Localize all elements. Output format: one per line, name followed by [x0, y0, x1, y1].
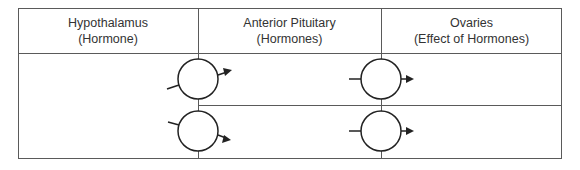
column-title: Anterior Pituitary [243, 15, 335, 31]
header-ovaries: Ovaries (Effect of Hormones) [381, 8, 562, 53]
column-title: Hypothalamus [68, 15, 148, 31]
hormone-table: Hypothalamus (Hormone) Anterior Pituitar… [0, 0, 580, 170]
header-hypothalamus: Hypothalamus (Hormone) [18, 8, 198, 53]
column-subtitle: (Effect of Hormones) [414, 31, 529, 47]
column-subtitle: (Hormones) [257, 31, 323, 47]
arrow-icon [406, 127, 414, 135]
connector-hypo-pit-1 [167, 59, 232, 99]
column-subtitle: (Hormone) [78, 31, 138, 47]
connector-pit-ovary-2 [349, 111, 414, 151]
connector-hypo-pit-2 [168, 111, 231, 151]
arrow-icon [406, 75, 414, 83]
circle-icon [178, 111, 218, 151]
circle-icon [361, 111, 401, 151]
header-anterior-pituitary: Anterior Pituitary (Hormones) [198, 8, 381, 53]
arrow-icon [223, 68, 232, 76]
connector-pit-ovary-1 [349, 59, 414, 99]
input-line [167, 85, 179, 89]
circle-icon [178, 59, 218, 99]
arrow-icon [222, 135, 231, 143]
circle-icon [361, 59, 401, 99]
column-title: Ovaries [450, 15, 493, 31]
input-line [168, 122, 179, 125]
